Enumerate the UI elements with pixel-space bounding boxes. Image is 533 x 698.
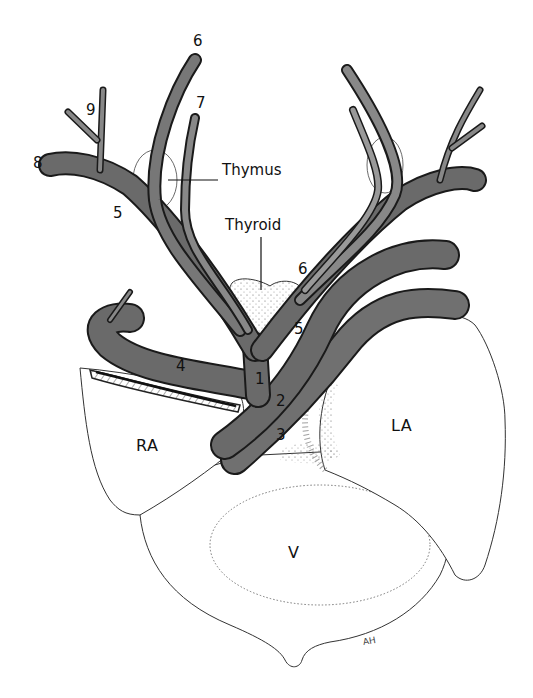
- label-vessel-5-right: 5: [294, 322, 304, 337]
- label-thymus: Thymus: [222, 163, 281, 178]
- label-vessel-9: 9: [86, 103, 96, 118]
- label-thyroid: Thyroid: [225, 218, 281, 233]
- heart-vessels-diagram: [0, 0, 533, 698]
- label-left-atrium: LA: [391, 418, 412, 434]
- label-vessel-6-right: 6: [298, 262, 308, 277]
- label-ventricle: V: [288, 545, 299, 561]
- label-vessel-2: 2: [276, 394, 286, 409]
- label-right-atrium: RA: [136, 438, 158, 454]
- label-vessel-1: 1: [255, 372, 265, 387]
- label-vessel-7: 7: [196, 96, 206, 111]
- label-vessel-3: 3: [276, 428, 286, 443]
- label-vessel-4: 4: [176, 359, 186, 374]
- label-vessel-8: 8: [33, 156, 43, 171]
- label-vessel-5-left: 5: [113, 206, 123, 221]
- label-vessel-6-top: 6: [193, 34, 203, 49]
